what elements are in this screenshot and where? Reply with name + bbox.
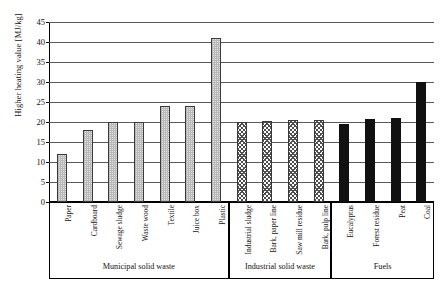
group-label: Fuels: [332, 262, 433, 271]
bar: [134, 122, 144, 202]
y-tick-label-35: 35: [37, 58, 46, 67]
bar: [185, 106, 195, 202]
bar: [339, 124, 349, 202]
group-box-2: Fuels: [331, 203, 434, 279]
bar: [391, 118, 401, 202]
bar: [83, 130, 93, 202]
bar: [237, 122, 247, 202]
y-tick-label-45: 45: [37, 18, 46, 27]
bar: [108, 122, 118, 202]
y-axis-title: Higher heating value [MJ/kg]: [13, 0, 23, 145]
group-box-1: Industrial solid waste: [229, 203, 332, 279]
bar: [314, 120, 324, 202]
bar: [416, 82, 426, 202]
plot-area: 051015202530354045: [49, 22, 434, 202]
bar: [365, 119, 375, 202]
y-tick-label-20: 20: [37, 118, 46, 127]
bar: [160, 106, 170, 202]
chart-container: Higher heating value [MJ/kg] 05101520253…: [0, 0, 444, 293]
y-tick-label-30: 30: [37, 78, 46, 87]
y-tick-label-0: 0: [41, 198, 45, 207]
bar: [57, 154, 67, 202]
bar: [211, 38, 221, 202]
y-tick-label-10: 10: [37, 158, 46, 167]
bar: [288, 120, 298, 202]
bars-layer: [49, 22, 434, 202]
y-tick-label-15: 15: [37, 138, 46, 147]
y-tick-label-25: 25: [37, 98, 46, 107]
group-label: Municipal solid waste: [50, 262, 228, 271]
group-labels: Municipal solid wasteIndustrial solid wa…: [49, 203, 434, 279]
group-box-0: Municipal solid waste: [49, 203, 229, 279]
y-tick-label-5: 5: [41, 178, 45, 187]
group-label: Industrial solid waste: [230, 262, 331, 271]
bar: [262, 121, 272, 202]
y-tick-label-40: 40: [37, 38, 46, 47]
